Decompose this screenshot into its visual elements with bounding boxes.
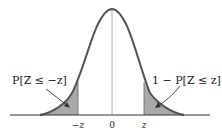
- right-label-arrow: [158, 86, 180, 106]
- left-tail-label: P[Z ≤ −z]: [12, 74, 67, 87]
- tick-label-neg-z: −z: [72, 120, 85, 130]
- normal-curve-diagram: P[Z ≤ −z] 1 − P[Z ≤ z] −z 0 z: [0, 0, 222, 136]
- right-tail-label: 1 − P[Z ≤ z]: [152, 74, 221, 87]
- tick-label-z: z: [141, 120, 147, 130]
- left-label-arrow: [46, 89, 68, 106]
- tick-label-zero: 0: [109, 120, 115, 130]
